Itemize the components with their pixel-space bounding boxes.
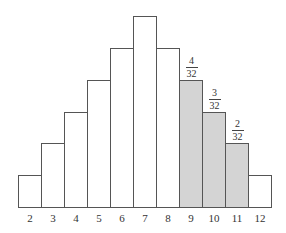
bar-9	[179, 80, 203, 208]
bar-8	[156, 48, 180, 208]
histogram-chart: 23456789101112432332232	[0, 0, 286, 233]
x-tick-label: 7	[134, 212, 157, 224]
x-tick-label: 8	[157, 212, 180, 224]
bar-6	[110, 48, 134, 208]
fraction-numerator: 4	[180, 56, 203, 66]
fraction-label-10: 332	[203, 88, 226, 111]
fraction-denominator: 32	[226, 132, 249, 142]
fraction-denominator: 32	[203, 101, 226, 111]
x-tick-label: 4	[65, 212, 88, 224]
bar-4	[64, 112, 88, 208]
x-tick-label: 5	[88, 212, 111, 224]
x-tick-label: 11	[226, 212, 249, 224]
x-tick-label: 6	[111, 212, 134, 224]
bar-3	[41, 143, 65, 208]
fraction-label-11: 232	[226, 119, 249, 142]
x-tick-label: 10	[203, 212, 226, 224]
fraction-denominator: 32	[180, 69, 203, 79]
fraction-numerator: 3	[203, 88, 226, 98]
bar-10	[202, 112, 226, 208]
fraction-numerator: 2	[226, 119, 249, 129]
bar-2	[18, 175, 42, 208]
bar-12	[248, 175, 272, 208]
bar-5	[87, 80, 111, 208]
x-tick-label: 2	[19, 212, 42, 224]
bar-7	[133, 16, 157, 208]
bar-11	[225, 143, 249, 208]
fraction-label-9: 432	[180, 56, 203, 79]
x-tick-label: 9	[180, 212, 203, 224]
x-tick-label: 12	[249, 212, 272, 224]
x-tick-label: 3	[42, 212, 65, 224]
x-axis-baseline	[18, 207, 272, 208]
